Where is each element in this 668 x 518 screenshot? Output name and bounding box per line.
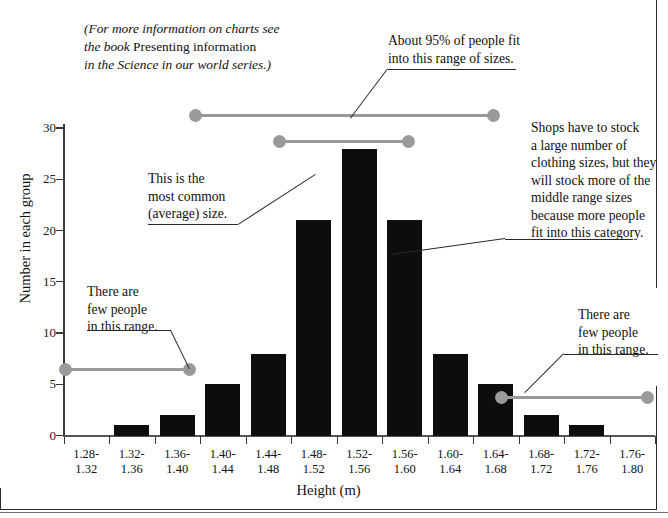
x-axis-tick-label: 1.64-1.68 bbox=[473, 447, 519, 476]
x-axis-tick-label: 1.52-1.56 bbox=[337, 447, 383, 476]
x-axis-tick bbox=[200, 436, 201, 444]
bar bbox=[478, 384, 513, 435]
bar bbox=[160, 415, 195, 436]
x-axis-tick bbox=[564, 436, 565, 444]
x-axis-label-line: 1.44- bbox=[255, 447, 281, 461]
annotation-most-common-line2: most common bbox=[148, 188, 288, 206]
annotation-few-people-right: There are few people in this range. bbox=[578, 306, 668, 359]
bar bbox=[524, 415, 559, 436]
x-axis-tick bbox=[655, 436, 656, 444]
x-axis-tick bbox=[610, 436, 611, 444]
x-axis-label-line: 1.32 bbox=[75, 462, 97, 476]
bar bbox=[433, 354, 468, 436]
annotation-few-people-right-line2: few people bbox=[578, 324, 668, 342]
x-axis-tick bbox=[291, 436, 292, 444]
y-axis-tick bbox=[56, 281, 63, 282]
x-axis-label-line: 1.40 bbox=[166, 462, 188, 476]
annotation-95-percent-line1: About 95% of people fit bbox=[388, 32, 618, 50]
x-axis-label-line: 1.72- bbox=[574, 447, 600, 461]
annotation-most-common-line3: (average) size. bbox=[148, 205, 288, 223]
range-marker-middle-dot-right bbox=[402, 135, 415, 148]
x-axis-label-line: 1.64 bbox=[439, 462, 461, 476]
annotation-few-people-left-line1: There are bbox=[87, 283, 197, 301]
x-axis-label-line: 1.72 bbox=[530, 462, 552, 476]
annotation-95-percent-line2: into this range of sizes. bbox=[388, 50, 618, 68]
x-axis-tick bbox=[337, 436, 338, 444]
bar bbox=[296, 220, 331, 435]
x-axis-label-line: 1.36- bbox=[164, 447, 190, 461]
annotation-95-percent: About 95% of people fit into this range … bbox=[388, 32, 618, 67]
x-axis-label-line: 1.76 bbox=[576, 462, 598, 476]
annotation-source-note: (For more information on charts see the … bbox=[84, 20, 344, 74]
x-axis-label-line: 1.48 bbox=[257, 462, 279, 476]
x-axis-tick-label: 1.28-1.32 bbox=[64, 447, 110, 476]
bar bbox=[342, 149, 377, 436]
annotation-few-people-left-leader-line bbox=[170, 330, 190, 369]
range-marker-left-bar bbox=[65, 368, 189, 371]
x-axis-tick bbox=[519, 436, 520, 444]
x-axis-label-line: 1.60 bbox=[394, 462, 416, 476]
annotation-few-people-left-line2: few people bbox=[87, 301, 197, 319]
annotation-source-note-line3: in the Science in our world series.) bbox=[84, 56, 344, 74]
annotation-few-people-right-underline bbox=[564, 354, 658, 355]
frame-border-bottom bbox=[0, 509, 657, 510]
x-axis-label-line: 1.32- bbox=[119, 447, 145, 461]
annotation-shops-line5: middle range sizes bbox=[531, 189, 666, 207]
range-marker-middle-bar bbox=[279, 140, 408, 143]
annotation-shops-line2: a large number of bbox=[531, 137, 666, 155]
annotation-source-note-line2-roman: Presenting information bbox=[133, 39, 256, 54]
range-marker-95-percent-bar bbox=[195, 114, 493, 117]
x-axis-tick bbox=[473, 436, 474, 444]
x-axis-title: Height (m) bbox=[0, 482, 657, 499]
annotation-source-note-line2-italic: the book bbox=[84, 39, 133, 54]
x-axis-label-line: 1.64- bbox=[483, 447, 509, 461]
range-marker-95-percent-dot-left bbox=[189, 109, 202, 122]
x-axis-label-line: 1.56- bbox=[392, 447, 418, 461]
annotation-source-note-line2: the book Presenting information bbox=[84, 38, 344, 56]
bar bbox=[569, 425, 604, 435]
x-axis-tick-label: 1.68-1.72 bbox=[519, 447, 565, 476]
x-axis-label-line: 1.44 bbox=[212, 462, 234, 476]
x-axis-label-line: 1.52- bbox=[346, 447, 372, 461]
x-axis-tick-label: 1.40-1.44 bbox=[200, 447, 246, 476]
x-axis-label-line: 1.40- bbox=[210, 447, 236, 461]
x-axis-label-line: 1.56 bbox=[348, 462, 370, 476]
annotation-most-common: This is the most common (average) size. bbox=[148, 170, 288, 223]
x-axis-label-line: 1.68- bbox=[528, 447, 554, 461]
x-axis-tick-label: 1.76-1.80 bbox=[610, 447, 656, 476]
range-marker-left-dot-left bbox=[59, 363, 72, 376]
x-axis-tick-label: 1.44-1.48 bbox=[246, 447, 292, 476]
chart-page: 051015202530 1.28-1.321.32-1.361.36-1.40… bbox=[0, 0, 668, 518]
bar bbox=[114, 425, 149, 435]
range-marker-left-dot-right bbox=[183, 363, 196, 376]
y-axis-tick-label: 0 bbox=[22, 429, 56, 442]
range-marker-middle-dot-left bbox=[273, 135, 286, 148]
y-axis-tick bbox=[56, 179, 63, 180]
annotation-95-percent-leader-line bbox=[350, 68, 388, 118]
y-axis-title: Number in each group bbox=[17, 129, 34, 349]
x-axis-tick bbox=[64, 436, 65, 444]
x-axis-tick-label: 1.48-1.52 bbox=[291, 447, 337, 476]
x-axis-label-line: 1.68 bbox=[485, 462, 507, 476]
range-marker-right-dot-left bbox=[495, 391, 508, 404]
x-axis-label-line: 1.52 bbox=[303, 462, 325, 476]
x-axis-tick-label: 1.36-1.40 bbox=[155, 447, 201, 476]
x-axis-tick-label: 1.56-1.60 bbox=[382, 447, 428, 476]
x-axis-label-line: 1.60- bbox=[437, 447, 463, 461]
annotation-shops-line3: clothing sizes, but they bbox=[531, 154, 666, 172]
x-axis-tick bbox=[382, 436, 383, 444]
annotation-95-percent-underline bbox=[388, 69, 516, 70]
annotation-most-common-line1: This is the bbox=[148, 170, 288, 188]
y-axis-tick bbox=[56, 230, 63, 231]
x-axis-tick-label: 1.72-1.76 bbox=[564, 447, 610, 476]
bar bbox=[205, 384, 240, 435]
x-axis-tick bbox=[155, 436, 156, 444]
annotation-few-people-left-underline bbox=[87, 330, 171, 331]
annotation-few-people-right-leader-line bbox=[524, 353, 564, 393]
x-axis-tick bbox=[109, 436, 110, 444]
bar bbox=[251, 354, 286, 436]
x-axis-label-line: 1.76- bbox=[619, 447, 645, 461]
annotation-shops: Shops have to stock a large number of cl… bbox=[531, 119, 666, 242]
annotation-few-people-right-line1: There are bbox=[578, 306, 668, 324]
annotation-shops-line6: because more people bbox=[531, 207, 666, 225]
